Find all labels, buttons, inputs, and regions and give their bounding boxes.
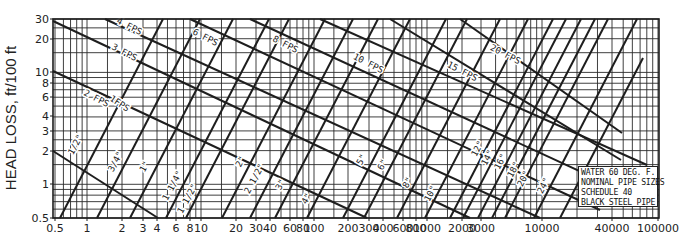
x-axis-ticks: 0.51234681020304060801002003004006008001… bbox=[46, 218, 679, 235]
svg-text:30: 30 bbox=[249, 222, 263, 235]
svg-text:8 FPS: 8 FPS bbox=[271, 34, 300, 55]
svg-text:10": 10" bbox=[422, 184, 438, 203]
svg-text:1 1/4": 1 1/4" bbox=[160, 169, 184, 202]
svg-text:100: 100 bbox=[304, 222, 325, 235]
svg-text:10 FPS: 10 FPS bbox=[352, 51, 386, 75]
svg-text:3: 3 bbox=[140, 222, 147, 235]
svg-text:400: 400 bbox=[373, 222, 394, 235]
legend-line-4: BLACK STEEL PIPE bbox=[581, 197, 657, 207]
svg-text:3 FPS: 3 FPS bbox=[110, 42, 139, 63]
svg-text:1: 1 bbox=[42, 178, 49, 191]
svg-text:10000: 10000 bbox=[525, 222, 560, 235]
svg-text:0.5: 0.5 bbox=[32, 212, 50, 225]
svg-text:6: 6 bbox=[42, 91, 49, 104]
legend-box: WATER 60 DEG. F. NOMINAL PIPE SIZES SCHE… bbox=[578, 166, 658, 207]
svg-text:20: 20 bbox=[229, 222, 243, 235]
svg-text:40: 40 bbox=[263, 222, 277, 235]
svg-text:1FPS: 1FPS bbox=[108, 93, 132, 113]
svg-text:4: 4 bbox=[154, 222, 161, 235]
svg-text:100000: 100000 bbox=[637, 222, 679, 235]
velocity-lines bbox=[53, 19, 647, 218]
svg-text:1: 1 bbox=[84, 222, 91, 235]
svg-text:4: 4 bbox=[42, 110, 49, 123]
legend-line-3: SCHEDULE 40 bbox=[581, 187, 657, 197]
svg-text:2: 2 bbox=[42, 145, 49, 158]
svg-text:1": 1" bbox=[137, 159, 151, 173]
svg-text:6: 6 bbox=[173, 222, 180, 235]
svg-text:20: 20 bbox=[35, 33, 49, 46]
svg-text:3000: 3000 bbox=[467, 222, 495, 235]
grid-lines bbox=[53, 19, 659, 218]
svg-text:1000: 1000 bbox=[413, 222, 441, 235]
svg-text:8: 8 bbox=[42, 77, 49, 90]
svg-text:10: 10 bbox=[194, 222, 208, 235]
plot-frame bbox=[53, 19, 659, 218]
svg-text:60: 60 bbox=[283, 222, 297, 235]
svg-text:4": 4" bbox=[299, 191, 313, 205]
svg-text:2: 2 bbox=[119, 222, 126, 235]
svg-text:8: 8 bbox=[187, 222, 194, 235]
svg-text:2 1/2": 2 1/2" bbox=[242, 162, 266, 195]
svg-text:30: 30 bbox=[35, 13, 49, 26]
legend-line-1: WATER 60 DEG. F. bbox=[581, 167, 657, 177]
svg-text:3: 3 bbox=[42, 125, 49, 138]
svg-text:40000: 40000 bbox=[595, 222, 630, 235]
pipe-size-lines bbox=[60, 19, 643, 218]
y-axis-label: HEAD LOSS, ft/100 ft bbox=[2, 18, 22, 218]
svg-text:200: 200 bbox=[338, 222, 359, 235]
y-axis-ticks: 3020108643210.5 bbox=[32, 13, 54, 225]
legend-line-2: NOMINAL PIPE SIZES bbox=[581, 177, 657, 187]
head-loss-chart: 1FPS2 FPS3 FPS4 FPS6 FPS8 FPS10 FPS15 FP… bbox=[0, 0, 694, 244]
svg-text:6": 6" bbox=[375, 157, 389, 171]
